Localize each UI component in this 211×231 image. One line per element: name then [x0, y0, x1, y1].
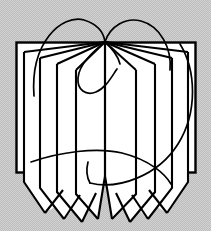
emblem-canvas [0, 0, 211, 231]
left-page-leaves [24, 42, 105, 222]
open-book-emblem-svg [0, 0, 211, 231]
